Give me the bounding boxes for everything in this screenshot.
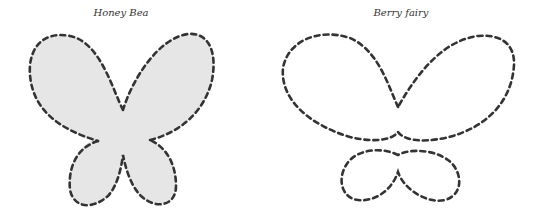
- berry-fairy-lower-wings: [342, 150, 460, 200]
- honey-bea-body-fill: [30, 34, 214, 205]
- berry-fairy-upper-wings: [283, 35, 514, 141]
- berry-fairy-butterfly-icon: [283, 35, 514, 201]
- honey-bea-butterfly-icon: [30, 34, 214, 205]
- butterflies-artwork: [0, 0, 538, 222]
